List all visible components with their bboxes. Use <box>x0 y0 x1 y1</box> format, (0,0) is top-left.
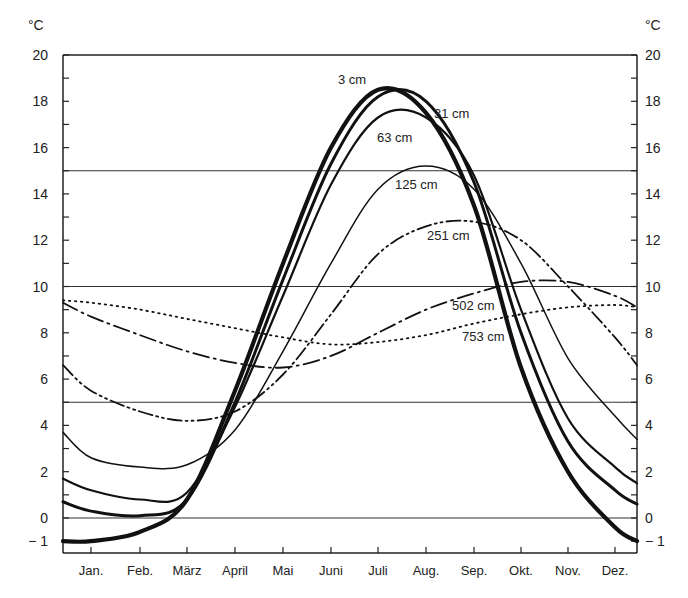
left-unit-label: °C <box>28 17 44 33</box>
label-63cm: 63 cm <box>377 130 412 145</box>
y-label-left: 12 <box>32 232 48 248</box>
month-label: Feb. <box>127 563 153 578</box>
y-label-right: 18 <box>645 93 661 109</box>
series-line-125cm <box>63 166 637 469</box>
series-line-31cm <box>63 90 637 517</box>
label-31cm: 31 cm <box>434 106 469 121</box>
y-label-right: 0 <box>645 510 653 526</box>
month-label: Okt. <box>509 563 533 578</box>
month-label: Jan. <box>79 563 104 578</box>
y-label-left: − 1 <box>28 533 48 549</box>
y-label-right: 8 <box>645 325 653 341</box>
series-line-3cm <box>63 88 637 542</box>
label-3cm: 3 cm <box>338 72 366 87</box>
x-axis-ticks <box>91 547 615 553</box>
y-label-left: 8 <box>40 325 48 341</box>
label-125cm: 125 cm <box>395 177 438 192</box>
y-label-left: 18 <box>32 93 48 109</box>
month-label: Sep. <box>461 563 488 578</box>
month-label: Mai <box>273 563 294 578</box>
y-label-right: 16 <box>645 140 661 156</box>
y-label-right: 4 <box>645 417 653 433</box>
y-label-right: 14 <box>645 186 661 202</box>
y-label-right: 10 <box>645 279 661 295</box>
month-label: April <box>222 563 248 578</box>
y-label-right: 6 <box>645 371 653 387</box>
y-label-left: 10 <box>32 279 48 295</box>
y-label-left: 20 <box>32 47 48 63</box>
month-label: März <box>173 563 202 578</box>
y-axis-left-labels: 20181614121086420− 1 <box>28 47 48 549</box>
y-label-right: 2 <box>645 464 653 480</box>
month-label: Nov. <box>555 563 581 578</box>
y-label-left: 0 <box>40 510 48 526</box>
month-label: Dez. <box>602 563 629 578</box>
y-axis-right-labels: 20181614121086420− 1 <box>645 47 665 549</box>
month-label: Juli <box>368 563 388 578</box>
reference-lines <box>63 171 637 518</box>
month-label: Aug. <box>413 563 440 578</box>
y-label-left: 6 <box>40 371 48 387</box>
x-axis-month-labels: Jan.Feb.MärzAprilMaiJuniJuliAug.Sep.Okt.… <box>79 563 629 578</box>
y-label-right: 12 <box>645 232 661 248</box>
y-label-left: 4 <box>40 417 48 433</box>
y-label-left: 14 <box>32 186 48 202</box>
series-line-251cm <box>63 221 637 421</box>
right-unit-label: °C <box>645 17 661 33</box>
label-753cm: 753 cm <box>462 329 505 344</box>
month-label: Juni <box>319 563 343 578</box>
label-502cm: 502 cm <box>452 298 495 313</box>
y-label-left: 16 <box>32 140 48 156</box>
label-251cm: 251 cm <box>427 228 470 243</box>
soil-temperature-chart: °C °C 20181614121086420− 1 2018161412108… <box>0 0 688 598</box>
y-label-left: 2 <box>40 464 48 480</box>
y-label-right: − 1 <box>645 533 665 549</box>
series-lines <box>63 88 637 542</box>
y-label-right: 20 <box>645 47 661 63</box>
